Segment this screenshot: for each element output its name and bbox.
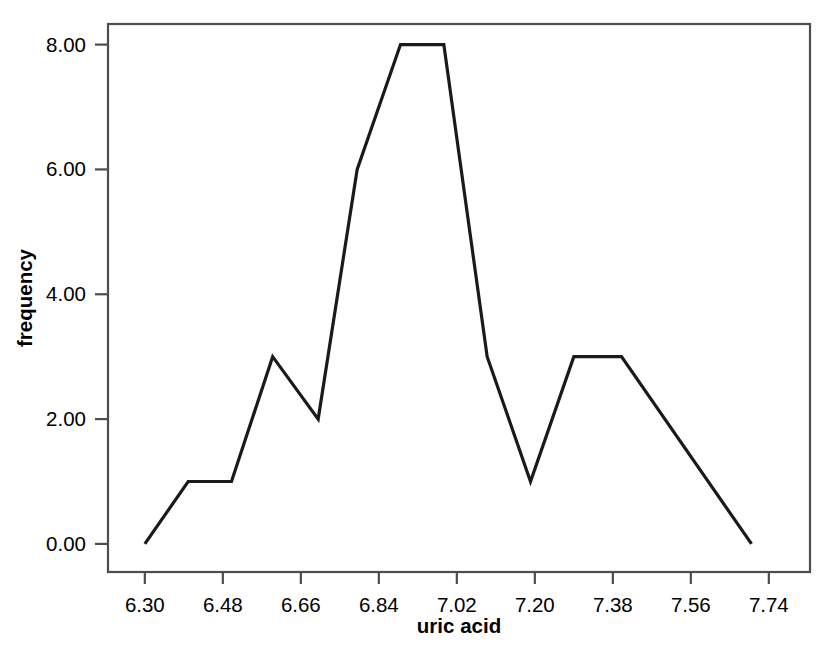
y-tick-label: 0.00 [46,532,86,555]
x-tick-label: 6.84 [359,593,399,616]
x-tick-label: 7.02 [437,593,477,616]
y-tick-label: 2.00 [46,407,86,430]
chart-background [0,0,840,647]
x-tick-label: 7.38 [593,593,633,616]
x-tick-label: 7.74 [749,593,789,616]
y-tick-label: 4.00 [46,282,86,305]
x-axis-tick-labels: 6.306.486.666.847.027.207.387.567.74 [125,593,789,616]
x-tick-label: 6.66 [281,593,321,616]
y-tick-label: 8.00 [46,33,86,56]
x-tick-label: 7.56 [671,593,711,616]
x-axis-title: uric acid [417,614,501,637]
x-tick-label: 6.30 [125,593,165,616]
y-tick-label: 6.00 [46,157,86,180]
x-tick-label: 6.48 [203,593,243,616]
y-axis-title: frequency [13,248,36,347]
x-tick-label: 7.20 [515,593,555,616]
frequency-polygon-chart: 6.306.486.666.847.027.207.387.567.74 0.0… [0,0,840,647]
chart-container: 6.306.486.666.847.027.207.387.567.74 0.0… [0,0,840,647]
